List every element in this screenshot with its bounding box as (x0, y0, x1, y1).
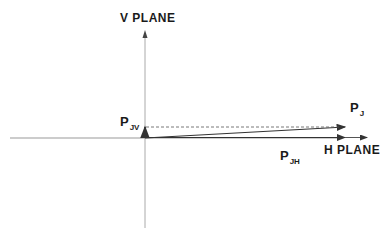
pj-vector (145, 127, 345, 138)
pjv-label: PJV (120, 114, 139, 132)
vector-diagram (0, 0, 385, 234)
pjh-label: PJH (280, 148, 300, 166)
pj-label: PJ (350, 100, 364, 118)
h-plane-label: H PLANE (324, 143, 380, 157)
v-plane-arrowhead (143, 30, 148, 38)
v-plane-label: V PLANE (120, 11, 176, 25)
